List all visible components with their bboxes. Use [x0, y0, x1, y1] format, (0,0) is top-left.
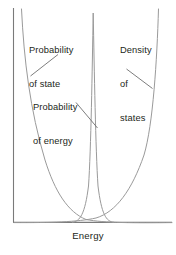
annotation-density-of-states-line3: states — [120, 113, 152, 124]
annotation-density-of-states-line1: Density — [120, 45, 152, 56]
figure-container: Probability of state Probability of ener… — [0, 0, 176, 255]
annotation-density-of-states-line2: of — [120, 79, 152, 90]
leader-line-probability-of-energy — [76, 103, 98, 129]
annotation-probability-of-energy-line2: of energy — [33, 136, 78, 147]
annotation-probability-of-energy-line1: Probability — [33, 102, 78, 113]
x-axis-label: Energy — [0, 230, 176, 241]
annotation-probability-of-state-line1: Probability — [29, 45, 74, 56]
annotation-density-of-states: Density of states — [120, 23, 152, 146]
curve-probability-of-energy — [72, 13, 114, 222]
annotation-probability-of-energy: Probability of energy — [33, 80, 78, 170]
